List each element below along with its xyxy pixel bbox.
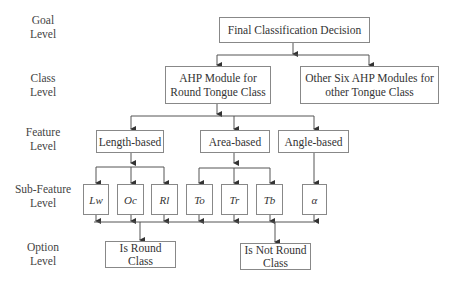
- subfeature-box-tr: Tr: [221, 184, 248, 215]
- subfeature-box-oc: Oc: [117, 184, 144, 215]
- feature-level-line2: Level: [15, 139, 71, 153]
- class-round-line2: Round Tongue Class: [170, 85, 265, 99]
- subfeature-lw-label: Lw: [89, 193, 102, 207]
- class-round-line1: AHP Module for: [179, 71, 257, 85]
- subfeature-box-alpha: α: [302, 184, 327, 215]
- class-level-line2: Level: [18, 85, 68, 99]
- subfeature-tb-label: Tb: [264, 193, 276, 207]
- option-not-round-line1: Is Not Round: [245, 244, 307, 257]
- feature-level-line1: Feature: [15, 125, 71, 139]
- goal-level-label: Goal Level: [18, 13, 68, 41]
- feature-box-area: Area-based: [200, 130, 270, 153]
- option-not-round-line2: Class: [263, 257, 288, 270]
- subfeature-rl-label: Rl: [160, 193, 170, 207]
- feature-area-label: Area-based: [209, 135, 261, 149]
- class-box-round: AHP Module for Round Tongue Class: [165, 66, 271, 104]
- class-other-line1: Other Six AHP Modules for: [305, 71, 434, 85]
- subfeature-level-label: Sub-Feature Level: [8, 182, 78, 210]
- subfeature-box-lw: Lw: [83, 184, 109, 215]
- subfeature-box-to: To: [186, 184, 213, 215]
- option-level-line1: Option: [15, 240, 71, 254]
- subfeature-box-rl: Rl: [151, 184, 178, 215]
- subfeature-tr-label: Tr: [230, 193, 240, 207]
- option-round-line2: Class: [128, 255, 153, 268]
- option-box-not-round: Is Not Round Class: [240, 243, 311, 270]
- option-box-round: Is Round Class: [105, 241, 176, 268]
- goal-box: Final Classification Decision: [219, 17, 370, 43]
- option-level-line2: Level: [15, 254, 71, 268]
- subfeature-oc-label: Oc: [124, 193, 137, 207]
- goal-level-line2: Level: [18, 27, 68, 41]
- class-other-line2: other Tongue Class: [325, 85, 413, 99]
- goal-level-line1: Goal: [18, 13, 68, 27]
- subfeature-alpha-label: α: [312, 193, 318, 207]
- subfeature-box-tb: Tb: [256, 184, 283, 215]
- feature-level-label: Feature Level: [15, 125, 71, 153]
- feature-box-length: Length-based: [96, 130, 164, 153]
- class-level-line1: Class: [18, 71, 68, 85]
- class-level-label: Class Level: [18, 71, 68, 99]
- feature-box-angle: Angle-based: [278, 130, 349, 153]
- feature-length-label: Length-based: [99, 135, 162, 149]
- goal-label: Final Classification Decision: [228, 23, 362, 37]
- option-round-line1: Is Round: [120, 242, 162, 255]
- subfeature-to-label: To: [194, 193, 205, 207]
- option-level-label: Option Level: [15, 240, 71, 268]
- subfeature-level-line2: Level: [8, 196, 78, 210]
- subfeature-level-line1: Sub-Feature: [8, 182, 78, 196]
- feature-angle-label: Angle-based: [284, 135, 342, 149]
- class-box-other: Other Six AHP Modules for other Tongue C…: [300, 66, 439, 104]
